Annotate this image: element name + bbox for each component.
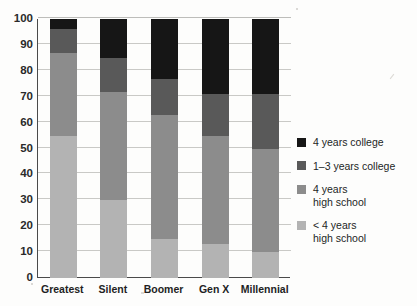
bar-segment [252,19,279,94]
bar-segment [151,79,178,115]
bar-segment [50,136,77,278]
plot-area [37,19,290,278]
legend-swatch-icon [297,185,306,194]
bar-segment [151,115,178,239]
legend-label: 4 years college [313,136,384,148]
y-tick-label-100: 100 [3,13,33,25]
bar-gen-x [202,19,229,278]
y-axis: 0102030405060708090100 [0,19,33,278]
x-tick-label-gen-x: Gen X [199,283,229,295]
bar-segment [100,92,127,201]
legend-item: 4 years college [297,136,415,149]
y-tick-label-50: 50 [3,143,33,155]
scan-speckle [296,8,298,10]
legend-label: 4 years [313,183,347,195]
scan-speckle [390,74,394,79]
bars-layer [38,19,291,278]
bar-boomer [151,19,178,278]
legend-label-line2: high school [313,196,415,209]
bar-silent [100,19,127,278]
bar-segment [100,200,127,278]
stacked-bar-chart: 0102030405060708090100 GreatestSilentBoo… [0,0,417,306]
y-tick-label-30: 30 [3,195,33,207]
bar-segment [252,94,279,148]
y-tick-label-60: 60 [3,117,33,129]
legend-label: < 4 years [313,219,356,231]
legend-swatch-icon [297,138,306,147]
bar-segment [202,136,229,245]
bar-segment [100,19,127,58]
bar-segment [151,19,178,79]
y-tick-label-40: 40 [3,169,33,181]
bar-segment [202,19,229,94]
y-tick-label-90: 90 [3,39,33,51]
legend-swatch-icon [297,221,306,230]
y-tick-label-20: 20 [3,220,33,232]
y-tick-label-10: 10 [3,246,33,258]
bar-segment [50,53,77,136]
legend: 4 years college1–3 years college4 yearsh… [297,136,415,255]
bar-millennial [252,19,279,278]
bar-segment [252,252,279,278]
bar-segment [50,19,77,29]
x-tick-label-greatest: Greatest [41,283,84,295]
bar-segment [100,58,127,92]
gridline-100 [38,17,291,18]
legend-item: 4 yearshigh school [297,183,415,208]
x-tick-label-silent: Silent [99,283,128,295]
bar-segment [202,94,229,135]
bar-segment [50,29,77,52]
bar-greatest [50,19,77,278]
y-tick-label-70: 70 [3,91,33,103]
x-tick-label-boomer: Boomer [144,283,184,295]
y-tick-label-0: 0 [3,272,33,284]
legend-item: 1–3 years college [297,160,415,173]
y-tick-label-80: 80 [3,65,33,77]
x-tick-label-millennial: Millennial [241,283,289,295]
legend-item: < 4 yearshigh school [297,219,415,244]
legend-swatch-icon [297,161,306,170]
legend-label-line2: high school [313,232,415,245]
bar-segment [252,149,279,253]
legend-label: 1–3 years college [313,160,395,172]
bar-segment [202,244,229,278]
bar-segment [151,239,178,278]
